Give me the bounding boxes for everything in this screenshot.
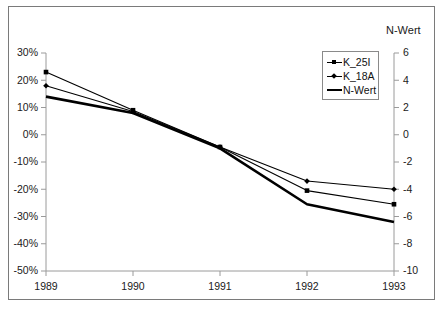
y-tick-label: -50% <box>0 265 38 276</box>
x-tick-label: 1989 <box>19 281 73 292</box>
y2-tick-label: -4 <box>403 184 443 195</box>
chart-legend: K_25I K_18A N-Wert <box>322 51 379 100</box>
x-tick-label: 1992 <box>280 281 334 292</box>
legend-marker-square-icon <box>326 56 343 68</box>
y-tick-label: -30% <box>0 211 38 222</box>
y2-tick-label: -6 <box>403 211 443 222</box>
legend-item-k18a: K_18A <box>323 69 378 83</box>
series-line-k-18a <box>46 86 394 190</box>
y-tick-label: -10% <box>0 156 38 167</box>
legend-marker-thickline-icon <box>326 84 343 96</box>
series-line-n-wert <box>46 97 394 222</box>
legend-marker-diamond-icon <box>326 70 343 82</box>
x-tick-label: 1993 <box>367 281 421 292</box>
y2-tick-label: -8 <box>403 238 443 249</box>
y-tick-label: 20% <box>0 75 38 86</box>
y2-tick-label: 2 <box>403 102 443 113</box>
y2-tick-label: -10 <box>403 265 443 276</box>
data-point <box>44 70 49 75</box>
data-point <box>391 186 397 192</box>
y-tick-label: 30% <box>0 47 38 58</box>
chart-canvas <box>0 0 443 309</box>
right-axis-title: N-Wert <box>386 24 421 36</box>
y-tick-label: 10% <box>0 102 38 113</box>
legend-label: N-Wert <box>343 84 376 96</box>
y2-tick-label: 6 <box>403 47 443 58</box>
legend-label: K_18A <box>343 70 375 82</box>
y2-tick-label: 0 <box>403 129 443 140</box>
legend-item-k25i: K_25I <box>323 55 378 69</box>
data-point <box>305 188 310 193</box>
data-point <box>392 202 397 207</box>
y-tick-label: 0% <box>0 129 38 140</box>
y2-tick-label: 4 <box>403 75 443 86</box>
right-axis-ticks <box>394 53 399 271</box>
y-tick-label: -40% <box>0 238 38 249</box>
y2-tick-label: -2 <box>403 156 443 167</box>
plot-area: 30% 20% 10% 0% -10% -20% -30% -40% -50% … <box>0 0 443 309</box>
chart-figure: 30% 20% 10% 0% -10% -20% -30% -40% -50% … <box>0 0 443 309</box>
data-point <box>43 83 49 89</box>
y-tick-label: -20% <box>0 184 38 195</box>
x-tick-label: 1990 <box>106 281 160 292</box>
legend-item-nwert: N-Wert <box>323 83 378 97</box>
data-point <box>304 178 310 184</box>
legend-label: K_25I <box>343 56 370 68</box>
x-tick-label: 1991 <box>193 281 247 292</box>
x-axis-ticks <box>46 271 394 276</box>
